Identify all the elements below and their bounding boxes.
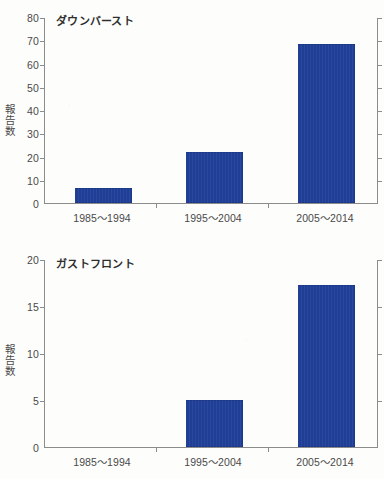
y-tick-label-b-10: 10 — [27, 348, 39, 360]
y-tick-40 — [40, 111, 45, 112]
y-tick-label-b-15: 15 — [27, 301, 39, 313]
x-axis-label-bottom-2: 1995〜2004 — [184, 454, 242, 469]
y-axis-label-top: 報告数 — [2, 104, 17, 137]
y-tick-right-10 — [377, 181, 382, 182]
bar-top-1995-2004 — [186, 152, 243, 203]
chart-gust-front: 報告数 ガストフロント 20 15 10 5 0 1985〜1994 1995〜… — [0, 240, 384, 479]
x-tick-1 — [156, 203, 157, 208]
y-tick-10 — [40, 181, 45, 182]
x-tick-2 — [268, 203, 269, 208]
plot-area-top: 80 70 60 50 40 30 20 10 0 — [44, 18, 378, 204]
y-tick-right-70 — [377, 41, 382, 42]
y-tick-label-0: 0 — [33, 198, 39, 210]
y-tick-label-b-5: 5 — [33, 395, 39, 407]
y-tick-70 — [40, 41, 45, 42]
y-tick-right-30 — [377, 134, 382, 135]
x-axis-label-top-3: 2005〜2014 — [296, 210, 354, 225]
y-tick-right-20 — [377, 158, 382, 159]
y-tick-50 — [40, 88, 45, 89]
y-tick-b-20 — [40, 260, 45, 261]
y-tick-label-b-0: 0 — [33, 442, 39, 454]
y-tick-20 — [40, 158, 45, 159]
y-tick-right-50 — [377, 88, 382, 89]
y-tick-right-b-10 — [377, 354, 382, 355]
y-axis-label-bottom: 報告数 — [2, 344, 17, 377]
y-tick-b-10 — [40, 354, 45, 355]
y-tick-label-50: 50 — [27, 82, 39, 94]
y-tick-right-80 — [377, 18, 382, 19]
bar-bottom-2005-2014 — [298, 285, 355, 447]
y-tick-label-60: 60 — [27, 59, 39, 71]
y-tick-label-20: 20 — [27, 152, 39, 164]
y-tick-right-b-5 — [377, 401, 382, 402]
y-tick-right-b-15 — [377, 307, 382, 308]
y-tick-right-b-20 — [377, 260, 382, 261]
x-axis-label-top-2: 1995〜2004 — [184, 210, 242, 225]
y-tick-label-10: 10 — [27, 175, 39, 187]
y-tick-b-15 — [40, 307, 45, 308]
y-tick-label-b-20: 20 — [27, 254, 39, 266]
y-tick-80 — [40, 18, 45, 19]
x-axis-label-top-1: 1985〜1994 — [73, 210, 131, 225]
plot-area-bottom: 20 15 10 5 0 — [44, 260, 378, 448]
y-tick-b-5 — [40, 401, 45, 402]
bar-bottom-1995-2004 — [186, 400, 243, 447]
bar-top-1985-1994 — [75, 188, 132, 203]
y-tick-right-60 — [377, 65, 382, 66]
x-axis-label-bottom-1: 1985〜1994 — [73, 454, 131, 469]
x-tick-b-2 — [268, 447, 269, 452]
y-tick-60 — [40, 65, 45, 66]
chart-downburst: 報告数 ダウンバースト 80 70 60 50 40 30 20 10 0 — [0, 0, 384, 240]
y-tick-label-40: 40 — [27, 105, 39, 117]
y-tick-right-40 — [377, 111, 382, 112]
y-tick-label-70: 70 — [27, 35, 39, 47]
y-tick-label-30: 30 — [27, 128, 39, 140]
bar-top-2005-2014 — [298, 44, 355, 203]
y-tick-30 — [40, 134, 45, 135]
x-axis-label-bottom-3: 2005〜2014 — [296, 454, 354, 469]
x-tick-b-1 — [156, 447, 157, 452]
y-tick-label-80: 80 — [27, 12, 39, 24]
